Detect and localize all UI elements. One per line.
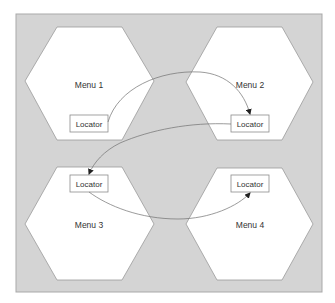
menu-label: Menu 3 <box>75 220 104 230</box>
locator-box[interactable]: Locator <box>231 115 269 132</box>
menu-label: Menu 4 <box>236 220 265 230</box>
locator-label: Locator <box>237 120 264 129</box>
menu-locator-diagram: Menu 1 Locator Menu 2 Locator Menu 3 Loc… <box>0 0 335 303</box>
menu-label: Menu 1 <box>75 80 104 90</box>
locator-label: Locator <box>76 180 103 189</box>
locator-box[interactable]: Locator <box>70 115 108 132</box>
locator-box[interactable]: Locator <box>70 175 108 192</box>
locator-label: Locator <box>237 180 264 189</box>
locator-label: Locator <box>76 120 103 129</box>
menu-label: Menu 2 <box>236 80 265 90</box>
locator-box[interactable]: Locator <box>231 175 269 192</box>
